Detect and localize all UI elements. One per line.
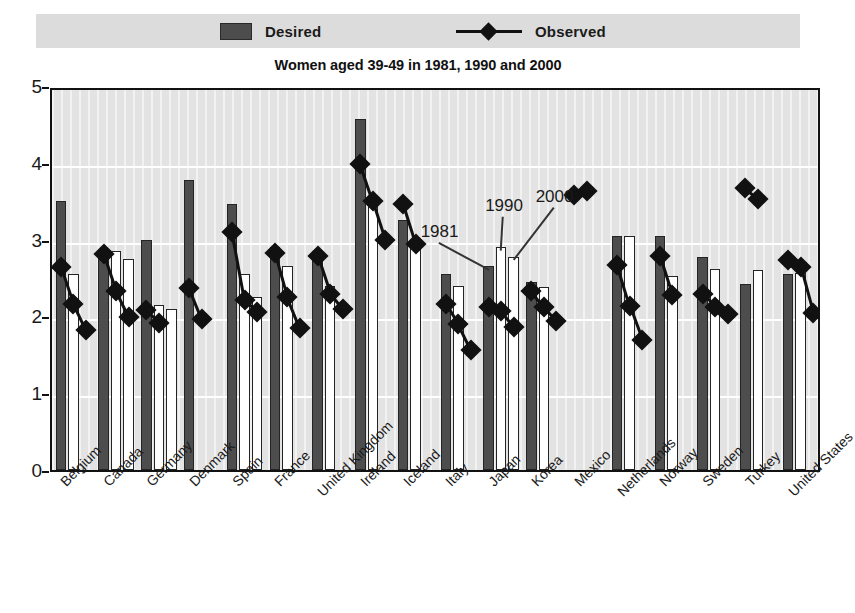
bar-desired	[410, 241, 421, 470]
plot-area: 198119902000	[50, 88, 820, 472]
x-axis-labels: BelgiumCanadaGermanyDenmarkSpainFranceUn…	[0, 472, 836, 613]
y-axis-tick-label: 5	[2, 76, 42, 98]
annotation-leader-line	[438, 242, 489, 270]
y-axis-tick-mark	[42, 87, 49, 89]
observed-diamond-marker	[264, 242, 285, 263]
y-axis-tick-label: 2	[2, 306, 42, 328]
observed-diamond-marker	[179, 278, 200, 299]
y-axis-tick-mark	[42, 164, 49, 166]
observed-diamond-marker	[221, 221, 242, 242]
annotation-leader-line	[500, 217, 503, 251]
bar-desired	[753, 270, 764, 470]
observed-diamond-marker	[393, 193, 414, 214]
bar-desired	[783, 274, 794, 470]
bar-desired	[508, 257, 519, 471]
gridline	[52, 243, 818, 245]
gridline	[52, 166, 818, 168]
annotation-label: 2000	[536, 187, 574, 207]
observed-diamond-marker	[307, 245, 328, 266]
bar-desired	[312, 251, 323, 470]
bar-desired	[398, 220, 409, 470]
y-axis-tick-mark	[42, 241, 49, 243]
bar-desired	[56, 201, 67, 470]
annotation-label: 1981	[421, 222, 459, 242]
y-axis-tick-label: 3	[2, 230, 42, 252]
observed-diamond-marker	[649, 245, 670, 266]
y-axis-tick-label: 1	[2, 383, 42, 405]
bar-desired	[325, 286, 336, 470]
bar-desired	[526, 282, 537, 470]
bar-desired	[740, 284, 751, 470]
y-axis-tick-label: 4	[2, 153, 42, 175]
y-axis: 012345	[0, 88, 42, 472]
bar-desired	[795, 273, 806, 470]
bar-desired	[184, 180, 195, 470]
bar-desired	[141, 240, 152, 470]
annotation-label: 1990	[485, 196, 523, 216]
y-axis-tick-mark	[42, 394, 49, 396]
y-axis-tick-mark	[42, 317, 49, 319]
observed-diamond-marker	[350, 154, 371, 175]
bar-desired	[624, 236, 635, 470]
bar-desired	[496, 247, 507, 470]
bar-desired	[270, 247, 281, 470]
bar-desired	[252, 297, 263, 470]
